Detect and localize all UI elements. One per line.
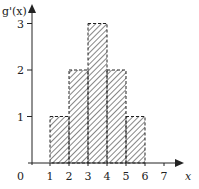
histogram-bar <box>88 24 107 164</box>
y-tick-label: 2 <box>17 64 24 77</box>
y-tick-label: 1 <box>17 111 24 124</box>
y-axis-arrow-icon <box>28 4 36 13</box>
histogram-bar <box>107 70 126 163</box>
bars-group <box>50 24 145 164</box>
histogram-bar <box>50 117 69 164</box>
x-axis-arrow-icon <box>175 159 184 167</box>
x-tick-label: 4 <box>104 170 111 183</box>
y-ticks-group: 123 <box>17 18 32 124</box>
y-tick-label: 3 <box>17 18 24 31</box>
x-axis-label: x <box>185 170 192 183</box>
histogram-chart: 1234567 123 g'(x) x 0 <box>0 0 199 189</box>
histogram-bar <box>69 70 88 163</box>
x-tick-label: 2 <box>66 170 73 183</box>
x-tick-label: 7 <box>161 170 168 183</box>
origin-label: 0 <box>17 170 24 183</box>
x-tick-label: 3 <box>85 170 92 183</box>
histogram-bar <box>126 117 145 164</box>
y-axis-label: g'(x) <box>2 5 27 18</box>
x-ticks-group: 1234567 <box>47 163 168 183</box>
x-tick-label: 6 <box>142 170 149 183</box>
x-tick-label: 1 <box>47 170 54 183</box>
x-tick-label: 5 <box>123 170 130 183</box>
